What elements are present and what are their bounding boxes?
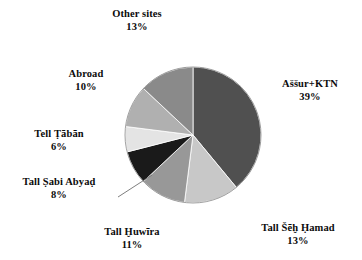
slice-label-percent: 10% — [36, 81, 136, 94]
slice-label-name: Abroad — [36, 68, 136, 81]
slice-label-abroad: Abroad 10% — [36, 68, 136, 93]
slice-label-percent: 13% — [238, 235, 358, 248]
pie-slice-group — [125, 67, 261, 203]
pie-chart: Other sites 13% Abroad 10% Tell Ṭābān 6%… — [0, 0, 362, 260]
slice-label-percent: 11% — [72, 239, 192, 252]
slice-label-tall-seh-hamad: Tall Šēḫ Ḥamad 13% — [238, 222, 358, 247]
slice-label-name: Other sites — [78, 8, 196, 21]
slice-label-percent: 39% — [258, 91, 362, 104]
slice-label-percent: 6% — [6, 141, 112, 154]
slice-label-name: Tell Ṭābān — [6, 128, 112, 141]
slice-label-name: Aššur+KTN — [258, 78, 362, 91]
slice-label-name: Tall Šēḫ Ḥamad — [238, 222, 358, 235]
slice-label-name: Tall Ḫuwīra — [72, 226, 192, 239]
slice-label-percent: 13% — [78, 21, 196, 34]
slice-label-tell-taban: Tell Ṭābān 6% — [6, 128, 112, 153]
slice-label-tall-sabi-abyad: Tall Ṣabi Abyaḍ 8% — [0, 176, 118, 201]
slice-label-other-sites: Other sites 13% — [78, 8, 196, 33]
slice-label-assur-ktn: Aššur+KTN 39% — [258, 78, 362, 103]
slice-label-percent: 8% — [0, 189, 118, 202]
slice-label-name: Tall Ṣabi Abyaḍ — [0, 176, 118, 189]
slice-label-tall-huwira: Tall Ḫuwīra 11% — [72, 226, 192, 251]
leader-line-sabi-abyad — [118, 175, 152, 197]
